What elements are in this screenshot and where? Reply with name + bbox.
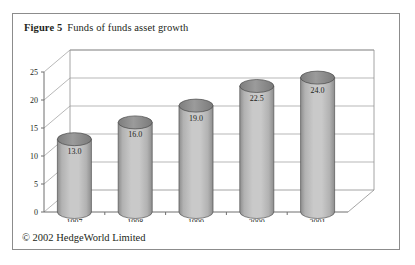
bar-top-cap [301,71,335,84]
bar-body [240,86,274,219]
chart-canvas: 051015202513.016.019.022.524.01997199819… [22,42,392,222]
bar-value-label: 24.0 [311,86,325,95]
bar-top-cap [57,133,91,146]
bar-1999: 19.0 [179,99,213,218]
bar-2001: 24.0 [301,71,335,218]
y-tick-label: 15 [30,124,38,133]
depth-connector [44,50,70,72]
y-tick-label: 25 [30,68,38,77]
y-tick-label: 10 [30,152,38,161]
bar-body [301,78,335,219]
depth-connector [44,78,70,100]
bar-1998: 16.0 [118,116,152,219]
bar-value-label: 22.5 [250,94,264,103]
depth-connector [44,106,70,128]
x-tick-label: 2000 [249,218,265,222]
x-tick-label: 1998 [127,218,143,222]
bar-top-cap [179,99,213,112]
y-tick-label: 5 [34,180,38,189]
bar-1997: 13.0 [57,133,91,219]
figure-screenshot: Figure 5Funds of funds asset growth 0510… [0,0,415,265]
copyright-line: © 2002 HedgeWorld Limited [22,232,145,243]
figure-title: Funds of funds asset growth [67,22,188,33]
bar-2000: 22.5 [240,80,274,219]
x-tick-label: 1997 [66,218,82,222]
bar-value-label: 13.0 [67,147,81,156]
bar-value-label: 16.0 [128,130,142,139]
bar-top-cap [118,116,152,129]
y-tick-label: 20 [30,96,38,105]
x-tick-label: 2001 [310,218,326,222]
bar-chart: 051015202513.016.019.022.524.01997199819… [22,42,392,222]
y-tick-label: 0 [34,208,38,217]
bar-top-cap [240,80,274,93]
bar-value-label: 19.0 [189,114,203,123]
x-tick-label: 1999 [188,218,204,222]
figure-caption: Figure 5Funds of funds asset growth [24,22,188,33]
figure-number: Figure 5 [24,22,62,33]
